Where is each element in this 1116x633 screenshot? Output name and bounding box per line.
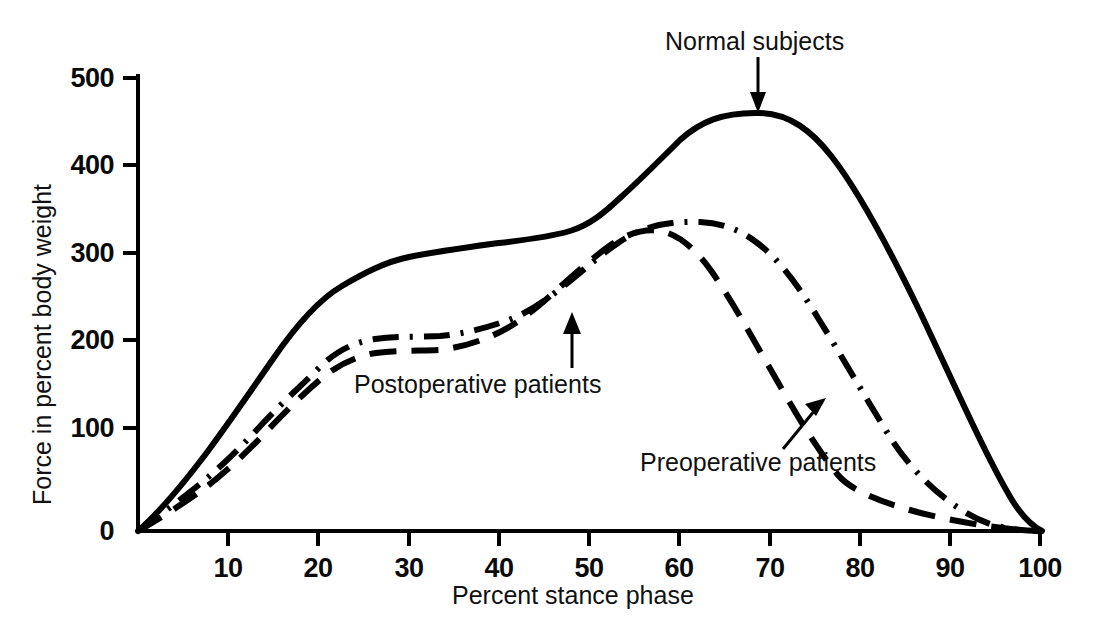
figure-container: 500 400 300 200 100 0 10 20 30 40 50 60 …: [0, 0, 1116, 633]
y-axis-title: Force in percent body weight: [28, 184, 57, 505]
annotation-arrow-postoperative: [563, 312, 581, 368]
x-tick-label-60: 60: [649, 553, 709, 584]
series-label-postoperative-patients: Postoperative patients: [354, 370, 601, 399]
y-tick-label-400: 400: [52, 150, 114, 181]
x-tick-label-10: 10: [198, 553, 258, 584]
x-tick-label-40: 40: [469, 553, 529, 584]
y-axis-ticks: [123, 78, 138, 428]
y-tick-label-300: 300: [52, 238, 114, 269]
series-label-preoperative-patients: Preoperative patients: [640, 448, 876, 477]
x-tick-label-100: 100: [1000, 553, 1080, 584]
y-tick-label-0: 0: [52, 516, 114, 547]
x-axis-ticks: [228, 531, 1040, 546]
series-normal-subjects: [138, 113, 1042, 531]
series-label-normal-subjects: Normal subjects: [665, 27, 844, 56]
chart-plot-area: [0, 0, 1116, 633]
x-tick-label-70: 70: [740, 553, 800, 584]
x-axis-title: Percent stance phase: [452, 581, 694, 610]
annotation-arrow-normal: [750, 57, 766, 113]
x-tick-label-30: 30: [379, 553, 439, 584]
x-tick-label-20: 20: [288, 553, 348, 584]
x-tick-label-90: 90: [920, 553, 980, 584]
y-tick-label-500: 500: [52, 63, 114, 94]
y-tick-label-100: 100: [52, 413, 114, 444]
x-tick-label-80: 80: [830, 553, 890, 584]
y-tick-label-200: 200: [52, 325, 114, 356]
x-tick-label-50: 50: [559, 553, 619, 584]
